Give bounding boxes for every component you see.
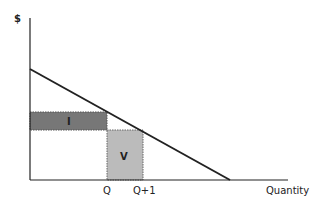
x-axis-label: Quantity xyxy=(266,185,309,196)
tick-label-q: Q xyxy=(103,185,111,196)
area-v-label: V xyxy=(120,151,128,162)
demand-diagram: $ Quantity Q Q+1 I V xyxy=(0,0,324,208)
area-i-label: I xyxy=(67,116,71,127)
y-axis-label: $ xyxy=(14,13,21,24)
tick-label-q-plus-1: Q+1 xyxy=(133,185,156,196)
